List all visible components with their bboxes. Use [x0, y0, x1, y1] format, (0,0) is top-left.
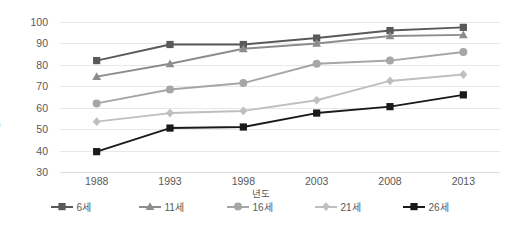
series-4 — [93, 70, 468, 126]
data-point-marker — [166, 124, 173, 131]
legend-marker-shape — [227, 201, 249, 212]
data-point-marker — [166, 86, 174, 94]
y-axis-tick-label: 30 — [36, 167, 48, 178]
x-axis-title: 년도 — [0, 186, 521, 200]
y-axis-tick-label: 40 — [36, 145, 48, 156]
y-axis-tick-label: 100 — [30, 17, 48, 28]
series-line — [97, 52, 464, 103]
x-axis-line — [60, 172, 500, 173]
data-point-marker — [93, 57, 100, 64]
data-point-marker — [386, 77, 394, 86]
legend-marker-circle-icon — [227, 201, 249, 212]
data-point-marker — [460, 24, 467, 31]
data-point-marker — [234, 203, 242, 211]
data-point-marker — [459, 48, 467, 56]
data-point-marker — [93, 117, 101, 126]
legend-label: 26세 — [429, 199, 449, 214]
data-point-marker — [313, 109, 320, 116]
legend-marker-square-icon — [403, 201, 425, 212]
y-axis-tick-label: 50 — [36, 124, 48, 135]
legend-label: 21세 — [341, 199, 361, 214]
legend-marker-square-icon — [51, 201, 73, 212]
y-axis-tick-label: 60 — [36, 102, 48, 113]
legend-marker-shape — [315, 201, 337, 212]
series-lines — [60, 22, 500, 172]
data-point-marker — [93, 148, 100, 155]
data-point-marker — [386, 57, 394, 65]
data-point-marker — [460, 91, 467, 98]
legend-label: 6세 — [77, 199, 92, 214]
data-point-marker — [93, 99, 101, 107]
legend-item-3[interactable]: 16세 — [217, 199, 305, 214]
series-line — [97, 27, 464, 60]
y-axis-tick-label: 90 — [36, 38, 48, 49]
series-3 — [93, 48, 468, 107]
chart-container: 30405060708090100 FEV1 예측치 % 19881993199… — [0, 0, 521, 227]
legend-item-1[interactable]: 6세 — [41, 199, 129, 214]
data-point-marker — [166, 109, 174, 118]
y-axis-tick-label: 80 — [36, 60, 48, 71]
y-axis-title: FEV1 예측치 % — [0, 82, 1, 145]
legend-item-4[interactable]: 21세 — [305, 199, 393, 214]
legend-label: 16세 — [253, 199, 273, 214]
data-point-marker — [240, 123, 247, 130]
plot-area — [60, 22, 500, 172]
data-point-marker — [313, 60, 321, 68]
series-line — [97, 75, 464, 122]
data-point-marker — [145, 202, 154, 210]
chart-legend: 6세11세16세21세26세 — [0, 199, 521, 214]
data-point-marker — [166, 41, 173, 48]
data-point-marker — [386, 103, 393, 110]
legend-marker-shape — [403, 201, 425, 212]
data-point-marker — [322, 202, 330, 211]
legend-marker-triangle-icon — [139, 201, 161, 212]
series-5 — [93, 91, 467, 155]
legend-label: 11세 — [165, 199, 184, 214]
legend-marker-shape — [51, 201, 73, 212]
legend-marker-diamond-icon — [315, 201, 337, 212]
data-point-marker — [410, 203, 417, 210]
series-line — [97, 95, 464, 152]
y-axis-title-subscript: 1 — [0, 123, 1, 127]
y-axis-tick-label: 70 — [36, 81, 48, 92]
data-point-marker — [239, 79, 247, 87]
data-point-marker — [58, 203, 65, 210]
data-point-marker — [459, 70, 467, 79]
legend-marker-shape — [139, 201, 161, 212]
legend-item-2[interactable]: 11세 — [129, 199, 217, 214]
data-point-marker — [313, 96, 321, 105]
legend-item-5[interactable]: 26세 — [393, 199, 481, 214]
data-point-marker — [239, 107, 247, 116]
